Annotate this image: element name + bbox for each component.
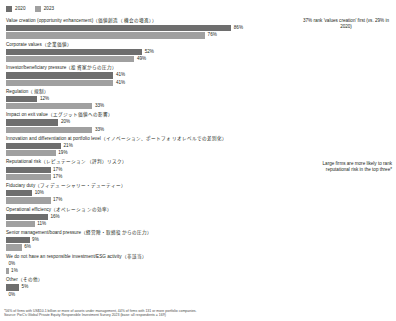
bar-group: Corporate values（企業価値）52%49% [4, 42, 396, 63]
bar-value-label: 19% [58, 150, 67, 156]
legend-item-2023: 2023 [35, 6, 55, 12]
bar-row: 41% [6, 80, 396, 86]
bar-2020 [6, 25, 231, 31]
category-label: Senior management/board pressure（経営陣・取締役… [6, 230, 396, 236]
bar-value-label: 76% [208, 32, 217, 38]
bar-row: 10% [6, 190, 396, 196]
bar-group: Operational efficiency（オペレーションの効率）16%11% [4, 207, 396, 228]
category-label: Impact on exit value（エグジット価値への影響） [6, 112, 396, 118]
bar-value-label: 12% [40, 96, 49, 102]
bar-value-label: 0% [9, 292, 16, 298]
bar-value-label: 41% [116, 72, 125, 78]
bar-value-label: 17% [53, 197, 62, 203]
bar-value-label: 33% [95, 103, 104, 109]
bar-value-label: 5% [22, 284, 29, 290]
bar-row: 0% [6, 261, 396, 267]
bar-row: 0% [6, 292, 396, 298]
bar-row: 33% [6, 127, 396, 133]
bar-2023 [6, 221, 35, 227]
bar-row: 41% [6, 72, 396, 78]
bar-2023 [6, 150, 56, 156]
bar-value-label: 52% [145, 49, 154, 55]
bar-2020 [6, 190, 32, 196]
bar-2020 [6, 143, 61, 149]
bar-row: 33% [6, 103, 396, 109]
bar-value-label: 0% [9, 261, 16, 267]
bar-2020 [6, 284, 19, 290]
bar-value-label: 86% [234, 25, 243, 31]
bar-value-label: 20% [61, 119, 70, 125]
category-label: Fiduciary duty（フィデューシャリー・デューティー） [6, 183, 396, 189]
bar-row: 21% [6, 143, 396, 149]
footnote-line-2: Source: PwC's Global Private Equity Resp… [4, 313, 304, 318]
bar-value-label: 6% [24, 244, 31, 250]
category-label: Operational efficiency（オペレーションの効率） [6, 207, 396, 213]
category-label: Investor/beneficiary pressure（投資家からの圧力） [6, 65, 396, 71]
bar-row: 17% [6, 197, 396, 203]
bar-row: 49% [6, 56, 396, 62]
bar-row: 52% [6, 49, 396, 55]
bar-value-label: 10% [35, 190, 44, 196]
bar-row: 12% [6, 96, 396, 102]
legend-swatch-icon [6, 6, 12, 12]
legend-swatch-icon [35, 6, 41, 12]
legend-item-2020: 2020 [6, 6, 26, 12]
bar-value-label: 9% [32, 237, 39, 243]
bar-2020 [6, 167, 51, 173]
chart-legend: 2020 2023 [6, 6, 392, 12]
bar-2023 [6, 103, 92, 109]
bar-row: 1% [6, 268, 396, 274]
chart-page: 2020 2023 Value creation (opportunity en… [0, 0, 396, 321]
bar-row: 19% [6, 150, 396, 156]
bar-value-label: 17% [53, 174, 62, 180]
bar-row: 9% [6, 237, 396, 243]
category-label: Other（その他） [6, 277, 396, 283]
bar-group: Impact on exit value（エグジット価値への影響）20%33% [4, 112, 396, 133]
bar-row: 16% [6, 214, 396, 220]
bar-group: Investor/beneficiary pressure（投資家からの圧力）4… [4, 65, 396, 86]
bar-2020 [6, 96, 37, 102]
bar-row: 20% [6, 119, 396, 125]
legend-label: 2020 [15, 7, 26, 12]
bar-2023 [6, 174, 51, 180]
legend-label: 2023 [44, 7, 55, 12]
bar-2023 [6, 127, 92, 133]
bar-value-label: 16% [50, 214, 59, 220]
bar-value-label: 17% [53, 167, 62, 173]
bar-group: We do not have an responsible investment… [4, 254, 396, 275]
bar-2020 [6, 237, 30, 243]
bar-value-label: 11% [37, 221, 46, 227]
category-label: Innovation and differentiation at portfo… [6, 136, 396, 142]
bar-2023 [6, 244, 22, 250]
callout-values-creation: 37% rank 'values creation' first (vs. 29… [300, 18, 392, 30]
bar-2020 [6, 72, 113, 78]
bar-row: 11% [6, 221, 396, 227]
category-label: Corporate values（企業価値） [6, 42, 396, 48]
category-label: We do not have an responsible investment… [6, 254, 396, 260]
bar-row: 5% [6, 284, 396, 290]
chart-footnote: *56% of firms with US$10.1 billion or mo… [4, 309, 304, 318]
bar-group: Senior management/board pressure（経営陣・取締役… [4, 230, 396, 251]
bar-group: Other（その他）5%0% [4, 277, 396, 298]
bar-2023 [6, 32, 205, 38]
bar-2020 [6, 214, 48, 220]
bar-row: 6% [6, 244, 396, 250]
bar-row: 76% [6, 32, 396, 38]
bar-2023 [6, 197, 51, 203]
bar-value-label: 1% [11, 268, 18, 274]
bar-2020 [6, 49, 142, 55]
bar-value-label: 33% [95, 127, 104, 133]
bar-2023 [6, 80, 113, 86]
category-label: Regulation（規制） [6, 89, 396, 95]
bar-group: Regulation（規制）12%33% [4, 89, 396, 110]
bar-group: Innovation and differentiation at portfo… [4, 136, 396, 157]
grouped-bar-chart: Value creation (opportunity enhancement)… [4, 18, 396, 298]
bar-row: 17% [6, 174, 396, 180]
callout-reputational-risk: Large firms are more likely to rank repu… [300, 161, 392, 173]
bar-value-label: 49% [137, 56, 146, 62]
bar-2023 [6, 56, 134, 62]
bar-2023 [6, 268, 9, 274]
bar-2020 [6, 119, 58, 125]
bar-value-label: 41% [116, 80, 125, 86]
bar-group: Fiduciary duty（フィデューシャリー・デューティー）10%17% [4, 183, 396, 204]
